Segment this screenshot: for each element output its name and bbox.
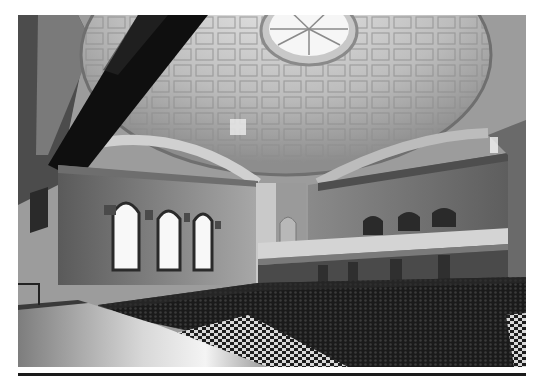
photo-caption	[18, 381, 526, 387]
auditorium-photo	[18, 15, 526, 367]
caption-rule	[18, 373, 526, 376]
